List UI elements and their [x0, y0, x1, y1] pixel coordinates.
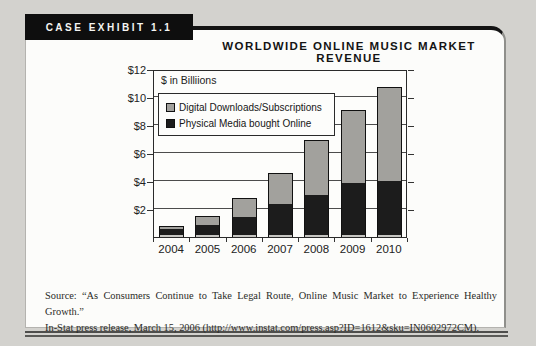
bar-2009-segment-digital: [342, 111, 365, 183]
y-tick-left-10: [147, 98, 153, 99]
bar-2010: [377, 87, 402, 237]
x-axis-label-2010: 2010: [369, 243, 409, 255]
bar-2009-base-sliver: [342, 235, 365, 237]
x-tick-4: [298, 238, 299, 242]
y-tick-right-12: [408, 70, 414, 71]
bar-2005-segment-physical: [196, 225, 219, 235]
x-axis-label-2008: 2008: [296, 243, 336, 255]
bar-2008-segment-digital: [305, 141, 328, 195]
y-tick-left-8: [147, 126, 153, 127]
x-tick-0: [153, 238, 154, 242]
y-tick-right-4: [408, 182, 414, 183]
x-axis-label-2007: 2007: [260, 243, 300, 255]
source-note: Source: “As Consumers Continue to Take L…: [45, 288, 497, 336]
bar-2006-segment-physical: [233, 217, 256, 236]
gridline-6: [154, 152, 406, 153]
bar-2005: [195, 216, 220, 237]
y-axis-label-4: $4: [106, 176, 146, 188]
y-axis-label-10: $10: [106, 92, 146, 104]
legend-row-physical: Physical Media bought Online: [166, 115, 327, 131]
bar-2005-segment-digital: [196, 217, 219, 225]
y-tick-left-4: [147, 182, 153, 183]
legend-label-physical: Physical Media bought Online: [179, 118, 311, 129]
y-tick-left-2: [147, 210, 153, 211]
bar-2010-segment-physical: [378, 181, 401, 235]
bar-2007-segment-digital: [269, 174, 292, 204]
bar-2007-base-sliver: [269, 235, 292, 237]
scanned-exhibit-page: CASE EXHIBIT 1.1 WORLDWIDE ONLINE MUSIC …: [0, 0, 536, 346]
x-tick-5: [334, 238, 335, 242]
x-tick-7: [407, 238, 408, 242]
bar-2006: [232, 198, 257, 237]
y-axis-label-8: $8: [106, 120, 146, 132]
bar-2006-base-sliver: [233, 235, 256, 237]
source-line-2: In-Stat press release, March 15, 2006 (h…: [45, 320, 497, 336]
chart-legend: Digital Downloads/Subscriptions Physical…: [158, 93, 335, 136]
bar-2006-segment-digital: [233, 199, 256, 217]
y-axis-label-6: $6: [106, 148, 146, 160]
legend-row-digital: Digital Downloads/Subscriptions: [166, 99, 327, 115]
bar-2007: [268, 173, 293, 237]
bar-2009: [341, 110, 366, 237]
y-tick-right-2: [408, 210, 414, 211]
bar-2004-base-sliver: [160, 235, 183, 237]
source-line-1: Source: “As Consumers Continue to Take L…: [45, 290, 497, 317]
bar-2008-segment-physical: [305, 195, 328, 235]
x-axis-label-2009: 2009: [333, 243, 373, 255]
bar-2008-base-sliver: [305, 235, 328, 237]
exhibit-tab-label: CASE EXHIBIT 1.1: [46, 22, 173, 33]
y-tick-right-6: [408, 154, 414, 155]
y-tick-right-8: [408, 126, 414, 127]
bar-2007-segment-physical: [269, 204, 292, 235]
x-tick-1: [189, 238, 190, 242]
x-tick-2: [226, 238, 227, 242]
y-tick-left-6: [147, 154, 153, 155]
unit-note: $ in Billiions: [161, 74, 216, 86]
x-tick-6: [371, 238, 372, 242]
bar-2005-base-sliver: [196, 235, 219, 237]
exhibit-tab: CASE EXHIBIT 1.1: [25, 14, 193, 40]
legend-swatch-physical-icon: [166, 119, 175, 128]
bar-2010-segment-digital: [378, 88, 401, 181]
x-axis-label-2004: 2004: [151, 243, 191, 255]
bar-2004: [159, 226, 184, 237]
y-tick-left-12: [147, 70, 153, 71]
y-axis-label-12: $12: [106, 64, 146, 76]
legend-swatch-digital-icon: [166, 103, 175, 112]
bar-2010-base-sliver: [378, 235, 401, 237]
x-axis-label-2006: 2006: [224, 243, 264, 255]
chart-title: WORLDWIDE ONLINE MUSIC MARKET REVENUE: [200, 40, 498, 64]
bar-2008: [304, 140, 329, 237]
bar-2009-segment-physical: [342, 183, 365, 235]
y-axis-label-2: $2: [106, 204, 146, 216]
x-tick-3: [262, 238, 263, 242]
y-tick-right-10: [408, 98, 414, 99]
legend-label-digital: Digital Downloads/Subscriptions: [179, 102, 322, 113]
x-axis-label-2005: 2005: [187, 243, 227, 255]
